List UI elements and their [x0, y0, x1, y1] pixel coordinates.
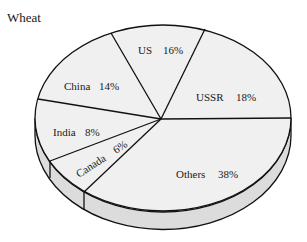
pie-chart: Canada 6% [0, 0, 307, 242]
label-ussr-value: 18% [236, 91, 256, 103]
label-china-value: 14% [99, 80, 119, 92]
pie-chart-svg: Canada 6% [0, 0, 307, 242]
label-us-name: US [138, 44, 152, 56]
chart-title: Wheat [7, 10, 41, 26]
label-ussr-name: USSR [196, 91, 224, 103]
label-india-name: India [53, 126, 76, 138]
label-others-name: Others [176, 168, 205, 180]
label-india-value: 8% [85, 126, 100, 138]
label-us-value: 16% [163, 44, 183, 56]
label-china-name: China [64, 80, 90, 92]
label-others-value: 38% [218, 168, 238, 180]
